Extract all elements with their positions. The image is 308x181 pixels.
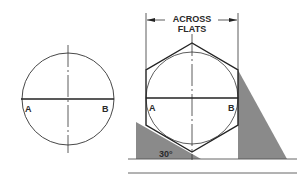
arrowhead-right-icon	[229, 18, 237, 22]
arrowhead-left-icon	[147, 18, 155, 22]
left-label-b: B	[102, 104, 109, 114]
left-circle-figure: A B	[21, 45, 114, 153]
hex-label-b: B	[228, 103, 235, 113]
drafting-triangles	[136, 70, 287, 159]
left-label-a: A	[25, 104, 32, 114]
angle-label: 30°	[159, 149, 173, 159]
right-triangle	[238, 70, 287, 159]
across-label: ACROSS	[173, 14, 212, 24]
hex-label-a: A	[149, 103, 156, 113]
diagram-canvas: A B A B ACROSS FLATS 30°	[0, 0, 308, 181]
flats-label: FLATS	[178, 24, 206, 34]
